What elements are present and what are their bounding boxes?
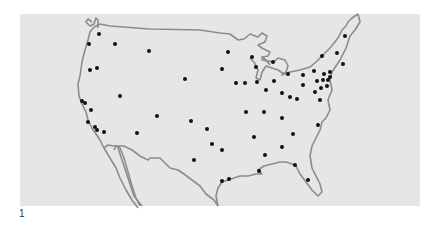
us-outline xyxy=(78,14,360,208)
city-dot xyxy=(315,79,319,83)
city-dot xyxy=(319,86,323,90)
city-dot xyxy=(102,130,106,134)
city-dot xyxy=(234,81,238,85)
city-dot xyxy=(243,81,247,85)
city-dot xyxy=(312,69,316,73)
city-dot xyxy=(250,55,254,59)
city-dot xyxy=(320,54,324,58)
city-dot xyxy=(318,98,322,102)
city-dot xyxy=(341,62,345,66)
city-dot xyxy=(326,78,330,82)
city-dot xyxy=(321,78,325,82)
city-dot xyxy=(210,142,214,146)
city-dot xyxy=(322,72,326,76)
city-dot xyxy=(97,32,101,36)
city-dot xyxy=(118,94,122,98)
city-dot xyxy=(89,108,93,112)
city-dot xyxy=(291,132,295,136)
city-dot xyxy=(88,68,92,72)
city-dot xyxy=(147,49,151,53)
city-dot xyxy=(95,128,99,132)
city-dot xyxy=(226,50,230,54)
city-dot xyxy=(286,72,290,76)
city-dot xyxy=(272,79,276,83)
city-dot xyxy=(255,80,259,84)
city-dot xyxy=(264,88,268,92)
city-dot xyxy=(220,148,224,152)
city-dot xyxy=(293,163,297,167)
city-dot xyxy=(252,135,256,139)
city-dot xyxy=(263,153,267,157)
city-dot xyxy=(113,42,117,46)
city-dot xyxy=(262,110,266,114)
city-dot xyxy=(280,91,284,95)
city-dot xyxy=(316,123,320,127)
city-dot xyxy=(295,97,299,101)
city-dot xyxy=(280,116,284,120)
city-dot xyxy=(87,42,91,46)
city-dot xyxy=(135,131,139,135)
city-dot xyxy=(183,77,187,81)
city-dot xyxy=(205,127,209,131)
city-dot xyxy=(244,110,248,114)
city-dot xyxy=(301,73,305,77)
city-dot xyxy=(254,65,258,69)
city-dot xyxy=(343,34,347,38)
city-dot xyxy=(313,90,317,94)
city-dot xyxy=(335,51,339,55)
city-dot xyxy=(86,120,90,124)
city-dot xyxy=(257,169,261,173)
city-dot xyxy=(220,179,224,183)
city-dot xyxy=(155,114,159,118)
city-dot xyxy=(83,101,87,105)
city-dot xyxy=(271,60,275,64)
city-dot xyxy=(280,145,284,149)
city-dot xyxy=(328,70,332,74)
city-dot xyxy=(227,177,231,181)
city-dot xyxy=(288,95,292,99)
city-dot xyxy=(189,119,193,123)
city-dot xyxy=(325,84,329,88)
city-dot xyxy=(192,158,196,162)
city-dot xyxy=(95,66,99,70)
figure-label: 1 xyxy=(19,208,25,219)
city-dot xyxy=(301,83,305,87)
city-dots xyxy=(80,32,347,183)
city-dot xyxy=(220,67,224,71)
us-map xyxy=(0,0,433,227)
city-dot xyxy=(306,178,310,182)
